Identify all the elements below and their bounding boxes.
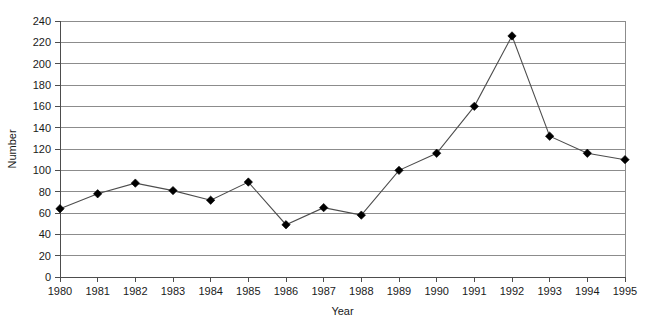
data-point-1980 — [56, 205, 64, 213]
x-tick-label-1990: 1990 — [424, 285, 448, 297]
x-tick-label-1983: 1983 — [161, 285, 185, 297]
data-point-1992 — [508, 32, 516, 40]
y-tick-label-80: 80 — [39, 186, 51, 198]
data-point-1982 — [131, 179, 139, 187]
y-tick-label-180: 180 — [33, 79, 51, 91]
data-series-number — [56, 32, 629, 229]
x-tick-label-1995: 1995 — [613, 285, 637, 297]
x-tick-label-1994: 1994 — [575, 285, 599, 297]
chart-canvas: 0204060801001201401601802002202401980198… — [0, 0, 645, 321]
x-axis-ticks: 1980198119821983198419851986198719881989… — [48, 277, 637, 297]
x-tick-label-1987: 1987 — [311, 285, 335, 297]
y-tick-label-140: 140 — [33, 122, 51, 134]
x-tick-label-1991: 1991 — [462, 285, 486, 297]
x-tick-label-1985: 1985 — [236, 285, 260, 297]
x-tick-label-1984: 1984 — [198, 285, 222, 297]
x-tick-label-1989: 1989 — [387, 285, 411, 297]
x-tick-label-1992: 1992 — [500, 285, 524, 297]
y-tick-label-60: 60 — [39, 207, 51, 219]
x-tick-label-1988: 1988 — [349, 285, 373, 297]
data-point-1981 — [93, 190, 101, 198]
data-point-1995 — [621, 155, 629, 163]
data-point-1987 — [319, 203, 327, 211]
data-point-1983 — [169, 186, 177, 194]
y-tick-label-240: 240 — [33, 15, 51, 27]
y-tick-label-20: 20 — [39, 250, 51, 262]
y-axis-title: Number — [6, 129, 18, 168]
y-tick-label-40: 40 — [39, 228, 51, 240]
y-tick-label-100: 100 — [33, 164, 51, 176]
data-point-1993 — [545, 132, 553, 140]
y-tick-label-220: 220 — [33, 36, 51, 48]
y-tick-label-160: 160 — [33, 100, 51, 112]
y-tick-label-0: 0 — [45, 271, 51, 283]
x-tick-label-1981: 1981 — [85, 285, 109, 297]
x-tick-label-1982: 1982 — [123, 285, 147, 297]
y-tick-label-200: 200 — [33, 58, 51, 70]
x-axis-title: Year — [331, 305, 354, 317]
y-axis-ticks: 020406080100120140160180200220240 — [33, 15, 60, 283]
x-tick-label-1986: 1986 — [274, 285, 298, 297]
grid-lines — [60, 21, 625, 256]
y-tick-label-120: 120 — [33, 143, 51, 155]
line-chart: 0204060801001201401601802002202401980198… — [0, 0, 645, 321]
data-point-1994 — [583, 149, 591, 157]
series-line — [60, 36, 625, 225]
x-tick-label-1980: 1980 — [48, 285, 72, 297]
x-tick-label-1993: 1993 — [537, 285, 561, 297]
data-point-1984 — [206, 196, 214, 204]
